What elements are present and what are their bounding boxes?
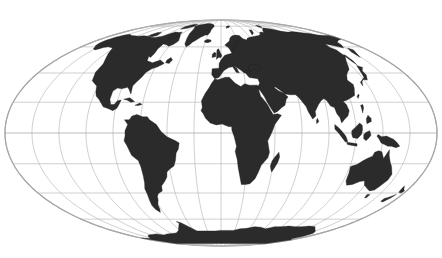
world-map-figure <box>0 0 442 258</box>
world-map-svg <box>0 0 442 258</box>
